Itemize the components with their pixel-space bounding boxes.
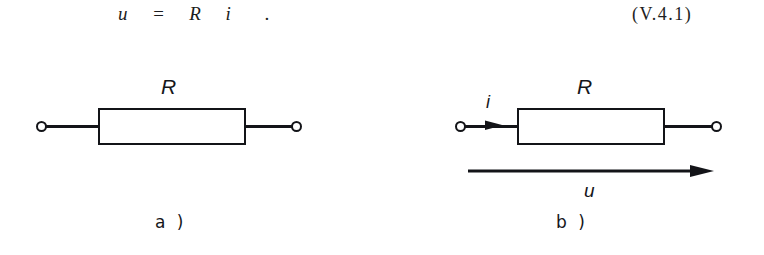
terminal-right-a	[291, 121, 302, 132]
voltage-arrow-icon	[468, 162, 716, 180]
resistance-label-a: R	[161, 75, 176, 99]
equation-number: (V.4.1)	[632, 4, 692, 25]
lead-left-a	[46, 125, 100, 128]
terminal-right-b	[711, 121, 722, 132]
lead-right-a	[244, 125, 296, 128]
subfigure-caption-a: a )	[155, 212, 186, 232]
resistor-body-a	[98, 108, 246, 145]
resistor-body-b	[517, 108, 665, 145]
lead-right-b	[663, 125, 715, 128]
current-arrowhead-icon	[485, 118, 507, 134]
resistance-label-b: R	[577, 75, 592, 99]
voltage-label-u: u	[584, 180, 595, 202]
current-label-i: i	[486, 92, 490, 113]
subfigure-caption-b: b )	[556, 212, 588, 232]
equation-ohms-law: u = R i .	[118, 3, 275, 25]
figure-canvas: u = R i . (V.4.1) R a ) R i u b	[0, 0, 764, 255]
